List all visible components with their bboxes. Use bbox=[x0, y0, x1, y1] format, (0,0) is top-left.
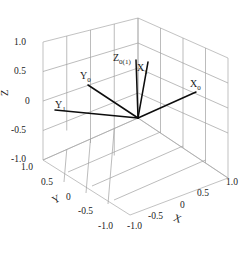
z-tick-label: -0.5 bbox=[11, 125, 26, 135]
z-tick-label: 1.0 bbox=[14, 37, 26, 47]
vector-label-y1-sub: 1 bbox=[62, 105, 66, 113]
z-axis-label: Z bbox=[0, 90, 10, 96]
vector-label-y0-sub: 0 bbox=[87, 76, 91, 84]
plot-3d-axes: 1.0 0.5 0 -0.5 -1.0 Z 1.0 0.5 0 -0.5 -1.… bbox=[0, 0, 247, 255]
y-tick-label: 0 bbox=[66, 192, 71, 202]
vector-label-z0: Z0(1) bbox=[113, 52, 131, 66]
vector-label-x1-sub: 1 bbox=[144, 68, 148, 76]
x-tick-label: 0 bbox=[180, 200, 185, 210]
vector-label-y1: Y1 bbox=[55, 99, 66, 113]
vector-label-x1: X1 bbox=[137, 62, 148, 76]
vector-label-x0: X0 bbox=[190, 78, 201, 92]
vector-x0 bbox=[138, 92, 196, 118]
y-tick-label: 0.5 bbox=[41, 177, 53, 187]
vector-label-y0: Y0 bbox=[80, 70, 91, 84]
vector-label-z0-sub: 0(1) bbox=[119, 58, 131, 66]
plot-canvas bbox=[0, 0, 247, 255]
x-tick-label: 1.0 bbox=[226, 177, 238, 187]
vector-y1 bbox=[55, 110, 138, 118]
y-tick-label: -1.0 bbox=[98, 221, 113, 231]
x-tick-label: 0.5 bbox=[197, 188, 209, 198]
vector-label-x0-sub: 0 bbox=[197, 84, 201, 92]
y-tick-label: -0.5 bbox=[78, 206, 93, 216]
x-tick-label: -0.5 bbox=[148, 211, 163, 221]
vector-y0 bbox=[88, 85, 138, 118]
z-tick-label: 0.5 bbox=[14, 66, 26, 76]
y-tick-label: 1.0 bbox=[21, 162, 33, 172]
x-tick-label: -1.0 bbox=[127, 221, 142, 231]
z-tick-label: 0 bbox=[25, 96, 30, 106]
